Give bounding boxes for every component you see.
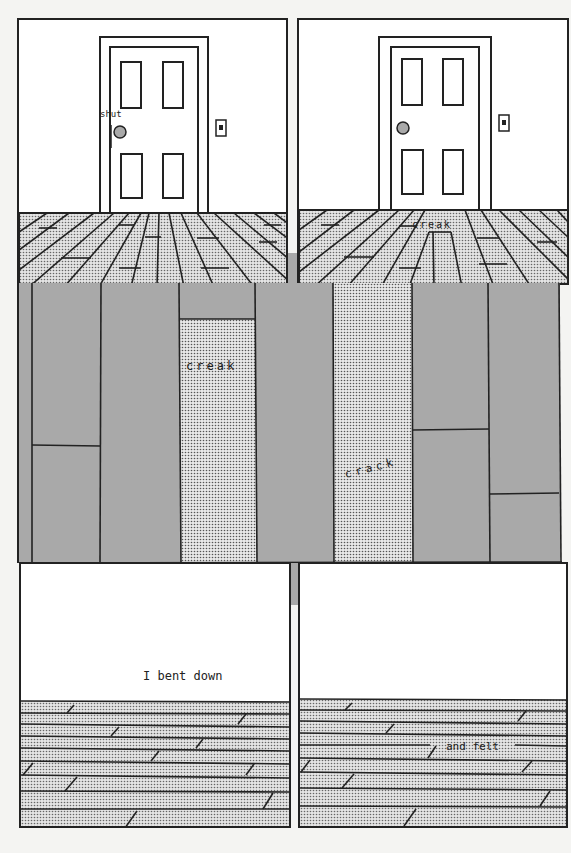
caption-creak-top: creak: [412, 219, 452, 230]
horizontal-floorboards: [21, 564, 291, 828]
panel-2: creak: [297, 18, 569, 285]
panel-3: I bent down: [19, 562, 291, 828]
caption-shut: shut: [100, 109, 122, 119]
caption-and-felt: and felt: [446, 740, 499, 753]
floorboards-closeup: [19, 283, 562, 563]
panel-middle: creak crack: [17, 283, 560, 563]
panel-1: shut: [17, 18, 288, 285]
caption-creak-middle: creak: [186, 359, 237, 373]
door-scene: [19, 20, 288, 285]
caption-i-bent-down: I bent down: [143, 669, 222, 683]
panel-4: and felt: [298, 562, 568, 828]
door-scene: [299, 20, 569, 285]
horizontal-floorboards: [300, 564, 568, 828]
